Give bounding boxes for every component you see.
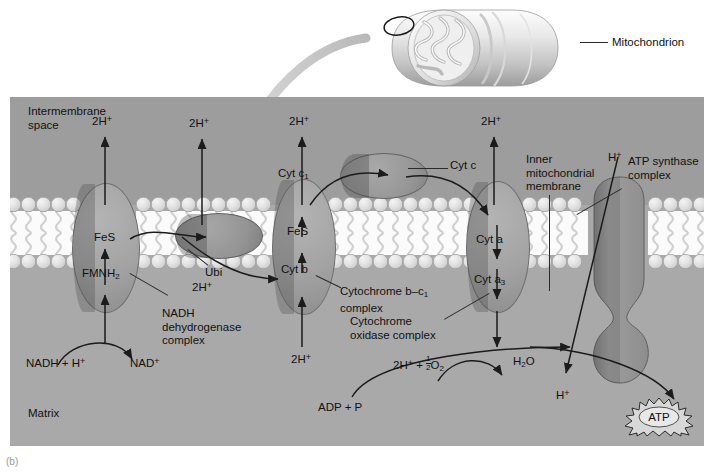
ubiquinone-carrier xyxy=(175,213,263,259)
proton-label-4: 2H+ xyxy=(481,113,501,129)
mitochondrion-label: Mitochondrion xyxy=(612,36,684,48)
inner-membrane-leader xyxy=(549,195,550,291)
phospholipid-head xyxy=(21,197,36,212)
phospholipid-head xyxy=(343,197,358,212)
phospholipid-head xyxy=(663,254,678,269)
proton-source-label-1: 2H+ xyxy=(192,279,212,295)
lipid-tails xyxy=(648,211,704,255)
cytochrome-bc1-label: Cytochrome b–c1 complex xyxy=(340,285,428,315)
phospholipid-head xyxy=(136,197,151,212)
phospholipid-head xyxy=(678,254,693,269)
cyt-c1-label: Cyt c1 xyxy=(278,167,309,184)
etc-panel: Intermembrane space Matrix xyxy=(10,97,704,446)
fes-label-complex1: FeS xyxy=(94,231,115,245)
inner-membrane-label: Inner mitochondrial membrane xyxy=(526,153,594,194)
mitochondrion-leader-line xyxy=(580,42,608,43)
oxygen-substrate-label: 2H+ + 12O2 xyxy=(393,355,444,376)
phospholipid-head xyxy=(418,254,433,269)
phospholipid-head xyxy=(388,197,403,212)
ims-line2: space xyxy=(28,119,59,131)
phospholipid-head xyxy=(448,197,463,212)
phospholipid-head xyxy=(388,254,403,269)
phospholipid-head xyxy=(567,254,582,269)
phospholipid-head xyxy=(448,254,463,269)
phospholipid-head xyxy=(678,197,693,212)
phospholipid-head xyxy=(403,254,418,269)
cytochrome-bc1-complex xyxy=(272,179,336,315)
membrane-segment-5 xyxy=(648,197,704,269)
phospholipid-head xyxy=(256,197,271,212)
phospholipid-head xyxy=(10,197,21,212)
fes-label-complex3: FeS xyxy=(287,225,308,239)
proton-label-1: 2H+ xyxy=(92,113,112,129)
phospholipid-head xyxy=(358,197,373,212)
nadh-dehydrogenase-label: NADH dehydrogenase complex xyxy=(162,307,241,348)
water-product-label: H2O xyxy=(513,355,535,372)
phospholipid-head xyxy=(343,254,358,269)
mitochondrion-illustration xyxy=(352,4,562,92)
atp-synthase-label: ATP synthase complex xyxy=(628,155,699,182)
phospholipid-head xyxy=(373,254,388,269)
inset-area: Mitochondrion xyxy=(0,0,714,97)
cyt-a3-label: Cyt a3 xyxy=(474,273,505,290)
phospholipid-head xyxy=(51,254,66,269)
phospholipid-head xyxy=(693,254,704,269)
phospholipid-head xyxy=(241,254,256,269)
cytochrome-oxidase-label: Cytochrome oxidase complex xyxy=(350,315,436,342)
phospholipid-head xyxy=(567,197,582,212)
adp-label: ADP + P xyxy=(318,401,362,415)
phospholipid-head xyxy=(433,197,448,212)
figure-caption: (b) xyxy=(6,456,18,467)
phospholipid-head xyxy=(256,254,271,269)
phospholipid-head xyxy=(226,197,241,212)
phospholipid-head xyxy=(36,197,51,212)
membrane-segment-4 xyxy=(522,197,588,269)
cyt-a-label: Cyt a xyxy=(476,233,503,247)
atp-synthase-complex xyxy=(582,175,656,391)
phospholipid-head xyxy=(151,197,166,212)
etc-diagram: Mitochondrion Intermembrane space Matrix xyxy=(0,0,714,473)
nadh-substrate-label: NADH + H+ xyxy=(26,355,85,371)
phospholipid-head xyxy=(433,254,448,269)
cyt-b-label: Cyt b xyxy=(281,263,308,277)
phospholipid-head xyxy=(663,197,678,212)
membrane-segment-3 xyxy=(328,197,474,269)
proton-in-label: H+ xyxy=(608,149,622,165)
fmnh2-label: FMNH2 xyxy=(82,267,120,284)
phospholipid-head xyxy=(358,254,373,269)
ubiquinone-label: Ubi xyxy=(205,266,222,280)
phospholipid-head xyxy=(693,197,704,212)
phospholipid-head xyxy=(403,197,418,212)
phospholipid-head xyxy=(166,197,181,212)
proton-out-label: H+ xyxy=(556,387,570,403)
cyt-c-leader xyxy=(408,168,448,169)
phospholipid-head xyxy=(373,197,388,212)
phospholipid-head xyxy=(51,197,66,212)
nad-product-label: NAD+ xyxy=(130,355,160,371)
phospholipid-head xyxy=(418,197,433,212)
phospholipid-head xyxy=(21,254,36,269)
cyt-c-label: Cyt c xyxy=(450,159,476,173)
proton-source-label-2: 2H+ xyxy=(291,351,311,367)
phospholipid-head xyxy=(10,254,21,269)
phospholipid-head xyxy=(211,197,226,212)
atp-label: ATP xyxy=(624,397,694,437)
phospholipid-head xyxy=(196,197,211,212)
lipid-tails xyxy=(328,211,474,255)
phospholipid-head xyxy=(181,197,196,212)
cytochrome-oxidase-complex xyxy=(466,181,530,313)
phospholipid-head xyxy=(151,254,166,269)
cytochrome-c-carrier xyxy=(340,153,428,199)
phospholipid-head xyxy=(552,197,567,212)
phospholipid-head xyxy=(36,254,51,269)
phospholipid-head xyxy=(241,197,256,212)
phospholipid-head xyxy=(552,254,567,269)
lipid-tails xyxy=(522,211,588,255)
proton-label-2: 2H+ xyxy=(189,115,209,131)
phospholipid-head xyxy=(166,254,181,269)
matrix-label: Matrix xyxy=(28,407,59,419)
proton-label-3: 2H+ xyxy=(289,113,309,129)
nadh-dehydrogenase-complex xyxy=(72,183,140,313)
